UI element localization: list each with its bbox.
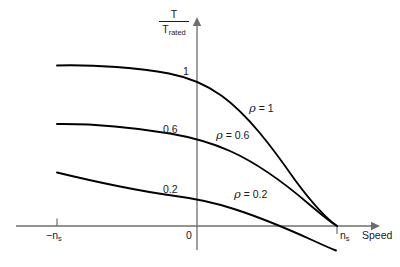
curve-label-rho-1: ρ = 1 (249, 103, 274, 115)
x-axis-label: Speed (362, 230, 392, 241)
curve-label-rho-02: ρ = 0.2 (234, 189, 267, 201)
y-axis-numerator: T (152, 8, 196, 21)
x-tick-negative-ns-main: −n (46, 229, 58, 241)
rho-value-02: = 0.2 (241, 188, 268, 200)
y-tick-label-06: 0.6 (163, 124, 178, 135)
x-tick-label-negative-ns: −ns (46, 230, 62, 242)
x-tick-negative-ns-subscript: s (58, 234, 62, 243)
x-tick-label-origin: 0 (186, 230, 192, 241)
rho-value-1: = 1 (256, 102, 274, 114)
torque-speed-chart: T Trated 1 0.6 0.2 −ns 0 ns Speed ρ = 1 … (0, 0, 400, 267)
y-axis-denominator: Trated (152, 22, 196, 37)
rho-value-06: = 0.6 (223, 129, 250, 141)
x-tick-positive-ns-subscript: s (346, 234, 350, 243)
rho-symbol-1: ρ (249, 101, 256, 115)
y-tick-label-1: 1 (183, 66, 189, 77)
rho-symbol-02: ρ (234, 187, 241, 201)
y-tick-label-02: 0.2 (163, 184, 178, 195)
x-tick-label-positive-ns: ns (340, 230, 350, 242)
y-axis-denominator-subscript: rated (169, 28, 186, 37)
y-axis-label: T Trated (152, 8, 196, 37)
rho-symbol-06: ρ (216, 128, 223, 142)
curve-label-rho-06: ρ = 0.6 (216, 130, 249, 142)
chart-canvas (0, 0, 400, 267)
